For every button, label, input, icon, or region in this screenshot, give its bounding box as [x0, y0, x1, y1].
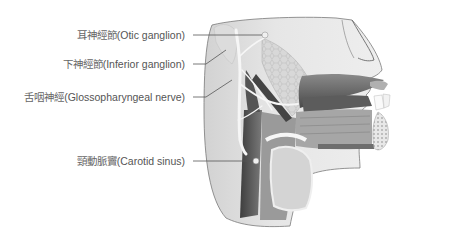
carotid-sinus-marker: [253, 158, 259, 164]
thyroid-cartilage: [271, 147, 312, 210]
otic-ganglion-marker: [262, 32, 268, 38]
label-carotid-sinus: 頸動脈竇(Carotid sinus): [77, 155, 185, 168]
teeth: [374, 95, 384, 110]
label-glossopharyngeal-nerve: 舌咽神經(Glossopharyngeal nerve): [24, 91, 185, 104]
label-inferior-ganglion: 下神經節(Inferior ganglion): [63, 58, 185, 71]
label-otic-ganglion: 耳神經節(Otic ganglion): [77, 29, 185, 42]
anatomy-diagram: 耳神經節(Otic ganglion) 下神經節(Inferior gangli…: [0, 0, 454, 238]
head-cross-section-illustration: [0, 0, 454, 238]
mandible: [373, 112, 389, 150]
